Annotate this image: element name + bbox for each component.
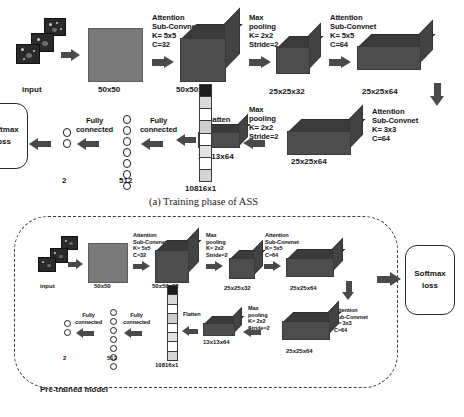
softmax-loss-box-pretrained: Softmax loss bbox=[405, 245, 455, 315]
dim-25x25x32-b: 25x25x32 bbox=[224, 285, 251, 291]
maxpool-1-label-b: Max pooling K= 2x2 Stride=2 bbox=[206, 232, 227, 258]
dim-13x13x64-b: 13x13x64 bbox=[203, 339, 230, 345]
arrow-fc2-b bbox=[124, 328, 142, 338]
dim-flatten-length-b: 10816x1 bbox=[155, 362, 178, 368]
dim-50x50-b: 50x50 bbox=[94, 283, 111, 289]
fc-2-neurons-b bbox=[62, 320, 72, 336]
pretrained-phase-panel: Pre-trained model input 50x50 Attention … bbox=[0, 0, 464, 417]
arrow-input-to-conv1-b bbox=[68, 259, 83, 269]
dim-25x25x64-top-b: 25x25x64 bbox=[290, 285, 317, 291]
input-thumbnail-front-b bbox=[38, 257, 56, 272]
arrow-fc1-b bbox=[76, 328, 94, 338]
arrow-to-softmax-b bbox=[377, 272, 401, 286]
arrow-pool2-left-b bbox=[243, 327, 261, 337]
dim-fc-2-b: 2 bbox=[63, 355, 66, 361]
dim-25x25x64-bottom-b: 25x25x64 bbox=[286, 348, 313, 354]
flatten-label-b: Flatten bbox=[183, 311, 201, 318]
attention-subconvnet-3-label-b: Attention Sub-Convnet K= 3x3 C=64 bbox=[334, 307, 368, 333]
pretrained-model-label: Pre-trained model bbox=[40, 385, 108, 394]
arrow-block1-to-pool1-b bbox=[206, 261, 223, 271]
input-label-b: input bbox=[40, 283, 55, 289]
arrow-conv1-to-block1-b bbox=[133, 261, 150, 271]
flatten-vector-b bbox=[167, 285, 178, 361]
arrow-flatten-b bbox=[182, 326, 198, 336]
arrow-pool1-to-block2-b bbox=[264, 261, 281, 271]
feature-map-50x50-b bbox=[88, 243, 128, 283]
fully-connected-2-label-b: Fully connected bbox=[123, 312, 150, 325]
arrow-block2-down-b bbox=[342, 281, 354, 301]
dim-fc-512-b: 512 bbox=[107, 355, 117, 361]
fully-connected-1-label-b: Fully connected bbox=[75, 312, 102, 325]
